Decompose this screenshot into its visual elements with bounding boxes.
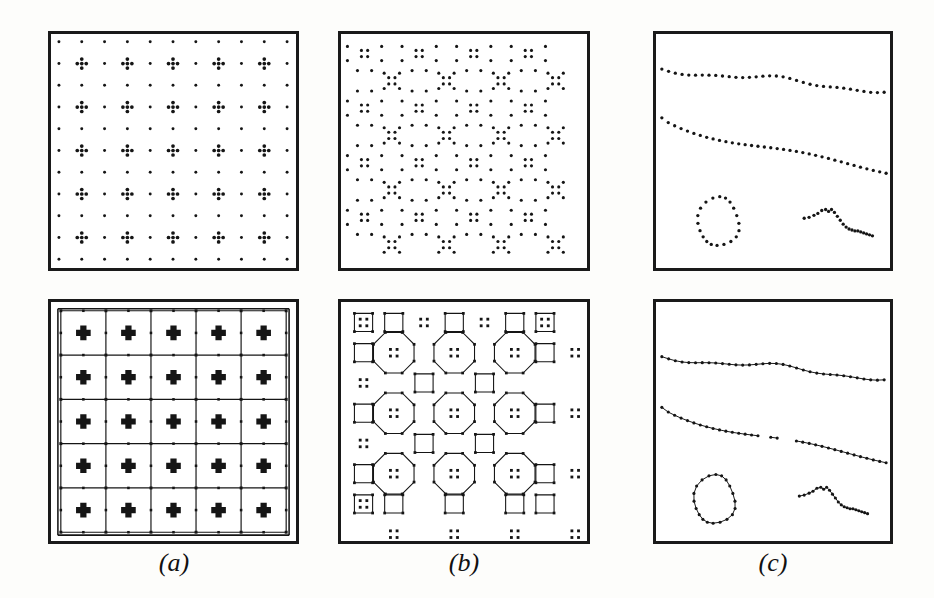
tiling-vertex-dot [507,251,510,254]
tiling-vertex-dot [383,142,386,145]
square-centre-cluster [496,131,499,134]
plus-cluster-dots [262,66,266,70]
plus-cluster-dots [171,101,175,105]
curve-dot-oval [715,244,718,247]
square-centre-cluster [448,192,451,195]
grid-node-dot [240,354,243,357]
curve-dot-upper [714,74,717,77]
square-centre-cluster [442,76,445,79]
square-tile [475,374,493,392]
curve-dot-lower [814,154,817,157]
tiling-vertex-marker [433,420,436,423]
isolated-group-token [365,439,368,442]
isolated-group-token [577,415,580,418]
plus-cluster-dots [75,236,79,240]
lattice-dot [194,127,197,130]
octagon-centre-cluster [475,49,478,52]
tiling-vertex-marker [504,493,507,496]
isolated-group-token [570,355,573,358]
octagon-centre-token [396,355,399,358]
grouped-curve-dot [734,363,737,366]
square-centre-cluster [557,240,560,243]
square-tile [354,344,372,362]
lattice-dot [149,214,152,217]
plus-cluster-dots [126,101,130,105]
plus-cluster-dots [171,236,175,240]
grouped-curve-dot [761,362,764,365]
isolated-group-token [486,318,489,321]
tiling-vertex-marker [553,493,556,496]
tiling-vertex-dot [479,89,482,92]
tiling-vertex-dot [400,154,403,157]
tiling-vertex-dot [510,154,513,157]
plus-cluster-dots [217,57,221,61]
tiling-vertex-dot [492,235,495,238]
tiling-vertex-marker [535,403,538,406]
tiling-vertex-marker [504,312,507,315]
tiling-vertex-dot [455,114,458,117]
tiling-vertex-dot [479,124,482,127]
panel-b-grouping [338,299,590,544]
tiling-vertex-marker [433,343,436,346]
plus-cluster-dots [167,236,171,240]
plus-cluster-dots [217,240,221,244]
tiling-vertex-dot [534,199,537,202]
plus-cluster-dots [262,240,266,244]
tiling-vertex-dot [370,69,373,72]
octagon-centre-cluster [524,103,527,106]
tiling-vertex-dot [544,45,547,48]
plus-cluster-dots [126,57,130,61]
isolated-group-token [359,385,362,388]
tiling-vertex-dot [534,144,537,147]
lattice-dot [149,258,152,261]
grid-edge-midpoint-dot [285,465,288,468]
curve-dot-lower [660,116,663,119]
cell-plus-token [211,503,226,518]
plus-cluster-dots [267,149,271,153]
plus-cluster-dots [171,240,175,244]
curve-dot-oval [699,207,702,210]
lattice-dot [103,149,106,152]
grouped-curve-dot [775,362,778,365]
grouped-curve-dot [872,458,875,461]
grid-edge-midpoint-dot [240,420,243,423]
grouped-curve-dot [660,406,663,409]
grid-edge-midpoint-dot [195,509,198,512]
octagon-centre-token [510,408,513,411]
grouped-curve-dot [748,363,751,366]
plus-cluster-dots [130,236,134,240]
plus-cluster-dots [80,62,84,66]
octagon-tile [494,453,535,494]
square-tile [445,495,463,513]
tiling-vertex-dot [437,196,440,199]
tiling-vertex-marker [353,360,356,363]
lattice-dot [57,258,60,261]
grouped-curve-dot [731,431,734,434]
square-centre-cluster [496,246,499,249]
tiling-vertex-marker [493,464,496,467]
lattice-dot [263,84,266,87]
lattice-dot [149,106,152,109]
octagon-centre-cluster [524,164,527,167]
curve-dot-oval [704,200,707,203]
lattice-dot [286,106,289,109]
plus-cluster-dots [176,105,180,109]
grouped-curve-dot [718,521,721,524]
tiling-vertex-marker [553,403,556,406]
octagon-centre-cluster [524,110,527,113]
grouped-curve-dot [692,421,695,424]
lattice-dot [172,40,175,43]
plus-cluster-dots [262,188,266,192]
tiling-vertex-dot [435,59,438,62]
tiling-vertex-dot [398,72,401,75]
curve-dot-upper [829,85,832,88]
tiling-vertex-marker [432,391,435,394]
isolated-group-token [570,536,573,539]
octagon-centre-cluster [414,55,417,58]
tiling-vertex-marker [462,330,465,333]
grid-edge-midpoint-dot [127,310,130,313]
curve-dot-upper [808,83,811,86]
octagon-centre-cluster [530,164,533,167]
octagon-centre-token [517,355,520,358]
tiling-vertex-dot [520,233,523,236]
